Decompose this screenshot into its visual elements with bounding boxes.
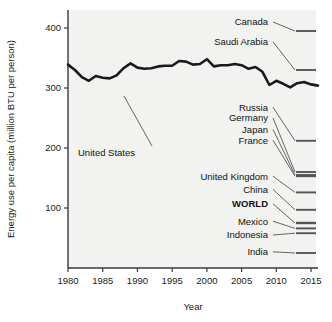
series-label-france: France — [238, 135, 268, 146]
chart-figure: 100200300400 198019851990199520002005201… — [0, 0, 332, 322]
series-label-saudi-arabia: Saudi Arabia — [214, 36, 269, 47]
series-label-china: China — [243, 184, 269, 195]
series-label-united-kingdom: United Kingdom — [200, 171, 268, 182]
series-label-mexico: Mexico — [238, 216, 268, 227]
series-label-indonesia: Indonesia — [227, 229, 269, 240]
y-axis-title: Energy use per capita (million BTU per p… — [5, 40, 16, 238]
y-tick-label: 300 — [45, 82, 61, 93]
series-label-russia: Russia — [239, 102, 269, 113]
x-tick-label: 2010 — [266, 275, 287, 286]
x-tick-label: 2000 — [196, 275, 217, 286]
x-tick-label: 1995 — [162, 275, 183, 286]
x-tick-label: 1990 — [127, 275, 148, 286]
x-tick-label: 1980 — [57, 275, 78, 286]
series-label-world: WORLD — [232, 198, 268, 209]
x-tick-label: 1985 — [92, 275, 113, 286]
x-axis-title: Year — [183, 301, 202, 312]
y-tick-label: 400 — [45, 22, 61, 33]
y-tick-label: 200 — [45, 142, 61, 153]
united-states-annotation-label: United States — [78, 147, 135, 158]
x-tick-label: 2015 — [300, 275, 321, 286]
series-label-germany: Germany — [229, 112, 268, 123]
x-tick-label: 2005 — [231, 275, 252, 286]
y-tick-label: 100 — [45, 202, 61, 213]
series-label-india: India — [247, 246, 268, 257]
line-chart-canvas: 100200300400 198019851990199520002005201… — [0, 0, 332, 322]
series-label-canada: Canada — [235, 16, 269, 27]
series-label-japan: Japan — [242, 124, 268, 135]
